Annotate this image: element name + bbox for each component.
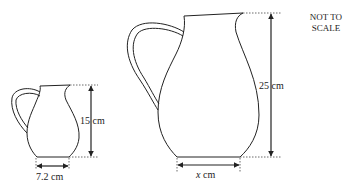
small-jug-base-label: 7.2 cm — [36, 171, 63, 182]
note-line-2: SCALE — [312, 23, 341, 33]
large-jug — [127, 13, 259, 157]
not-to-scale-note: NOT TO SCALE — [310, 12, 343, 33]
large-jug-handle — [127, 23, 184, 110]
base-unit: cm — [200, 169, 215, 180]
small-jug-base-dimension: 7.2 cm — [36, 158, 69, 182]
small-jug — [12, 85, 79, 157]
large-jug-height-label: 25 cm — [259, 80, 284, 91]
large-jug-base-dimension: x cm — [177, 158, 240, 180]
small-jug-handle — [12, 89, 40, 133]
similar-jugs-diagram: 15 cm 7.2 cm 25 cm x cm NOT TO SCALE — [0, 0, 344, 192]
small-jug-height-label: 15 cm — [80, 115, 105, 126]
small-jug-height-dimension: 15 cm — [69, 85, 105, 157]
large-jug-base-label: x cm — [195, 169, 215, 180]
note-line-1: NOT TO — [310, 12, 343, 22]
large-jug-height-dimension: 25 cm — [240, 13, 284, 157]
large-jug-body — [158, 13, 259, 157]
small-jug-body — [27, 85, 79, 157]
